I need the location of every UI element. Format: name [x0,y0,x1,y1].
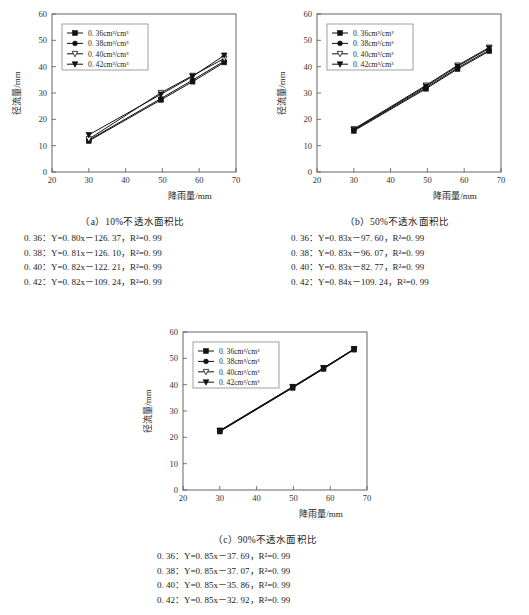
figure-panel-b: 2030405060700102030405060降雨量/mm径流量/mm0. … [265,0,529,310]
equation-item: 0. 40：Y=0. 82x－122. 21，R²=0. 99 [24,260,265,275]
svg-text:0. 40cm³/cm³: 0. 40cm³/cm³ [219,368,260,377]
equation-item: 0. 36：Y=0. 85x－37. 69，R²=0. 99 [157,549,399,564]
svg-text:30: 30 [350,175,359,185]
svg-text:降雨量/mm: 降雨量/mm [299,508,343,519]
svg-text:50: 50 [170,353,179,363]
svg-text:60: 60 [460,175,469,185]
svg-text:降雨量/mm: 降雨量/mm [168,190,212,201]
equation-item: 0. 42：Y=0. 84x－109. 24，R²=0. 99 [291,275,529,290]
equation-list-c: 0. 36：Y=0. 85x－37. 69，R²=0. 99 0. 38：Y=0… [131,549,399,607]
svg-text:40: 40 [304,62,313,72]
equation-item: 0. 36：Y=0. 83x－97. 60，R²=0. 99 [291,231,529,246]
svg-text:70: 70 [232,175,241,185]
svg-text:30: 30 [85,175,94,185]
figure-panel-a: 2030405060700102030405060降雨量/mm径流量/mm0. … [0,0,265,310]
svg-text:0. 36cm³/cm³: 0. 36cm³/cm³ [88,29,129,38]
equation-item: 0. 42：Y=0. 85x－32. 92，R²=0. 99 [157,593,399,608]
equation-item: 0. 38：Y=0. 81x－126. 10，R²=0. 99 [24,246,265,261]
equation-list-b: 0. 36：Y=0. 83x－97. 60，R²=0. 99 0. 38：Y=0… [265,231,529,289]
figure-panel-c: 2030405060700102030405060降雨量/mm径流量/mm0. … [131,318,399,615]
svg-text:20: 20 [313,175,322,185]
svg-text:20: 20 [179,493,188,503]
svg-text:60: 60 [326,493,335,503]
plot-area-a: 2030405060700102030405060降雨量/mm径流量/mm0. … [0,0,265,212]
equation-list-a: 0. 36：Y=0. 80x－126. 37，R²=0. 99 0. 38：Y=… [0,231,265,289]
svg-text:径流量/mm: 径流量/mm [276,71,287,115]
svg-text:30: 30 [216,493,225,503]
svg-text:20: 20 [170,432,179,442]
equation-item: 0. 38：Y=0. 83x－96. 07，R²=0. 99 [291,246,529,261]
svg-text:60: 60 [195,175,204,185]
svg-text:30: 30 [170,406,179,416]
svg-text:10: 10 [39,141,48,151]
svg-text:0. 42cm³/cm³: 0. 42cm³/cm³ [88,60,129,69]
svg-text:0. 38cm³/cm³: 0. 38cm³/cm³ [88,39,129,48]
svg-text:50: 50 [158,175,167,185]
panel-caption-a: （a）10%不透水面积比 [0,214,265,228]
svg-text:0. 40cm³/cm³: 0. 40cm³/cm³ [88,50,129,59]
svg-text:30: 30 [39,88,48,98]
svg-text:40: 40 [252,493,260,503]
svg-text:径流量/mm: 径流量/mm [142,389,153,433]
svg-text:40: 40 [386,175,395,185]
svg-text:60: 60 [170,327,179,337]
svg-text:0. 38cm³/cm³: 0. 38cm³/cm³ [219,357,260,366]
equation-item: 0. 38：Y=0. 85x－37. 07，R²=0. 99 [157,564,399,579]
svg-text:0. 38cm³/cm³: 0. 38cm³/cm³ [353,39,394,48]
svg-text:20: 20 [39,114,48,124]
svg-text:50: 50 [304,35,313,45]
svg-text:0: 0 [174,485,178,495]
svg-text:径流量/mm: 径流量/mm [11,71,22,115]
svg-text:70: 70 [363,493,372,503]
svg-text:40: 40 [121,175,130,185]
svg-text:50: 50 [39,35,48,45]
svg-text:10: 10 [170,459,179,469]
svg-text:60: 60 [304,9,313,19]
plot-area-c: 2030405060700102030405060降雨量/mm径流量/mm0. … [131,318,399,530]
svg-text:0: 0 [43,167,47,177]
panel-caption-b: （b）50%不透水面积比 [265,214,529,228]
svg-text:40: 40 [39,62,48,72]
chart-svg-c: 2030405060700102030405060降雨量/mm径流量/mm0. … [131,318,376,530]
svg-text:0. 36cm³/cm³: 0. 36cm³/cm³ [353,29,394,38]
equation-item: 0. 40：Y=0. 85x－35. 86，R²=0. 99 [157,578,399,593]
svg-text:20: 20 [304,114,313,124]
svg-text:10: 10 [304,141,313,151]
svg-text:0. 42cm³/cm³: 0. 42cm³/cm³ [219,378,260,387]
equation-item: 0. 40：Y=0. 83x－82. 77，R²=0. 99 [291,260,529,275]
svg-text:70: 70 [497,175,506,185]
chart-svg-a: 2030405060700102030405060降雨量/mm径流量/mm0. … [0,0,245,212]
equation-item: 0. 36：Y=0. 80x－126. 37，R²=0. 99 [24,231,265,246]
plot-area-b: 2030405060700102030405060降雨量/mm径流量/mm0. … [265,0,529,212]
svg-text:20: 20 [48,175,57,185]
svg-text:40: 40 [170,380,179,390]
svg-text:降雨量/mm: 降雨量/mm [433,190,477,201]
panel-caption-c: （c）90%不透水面积比 [131,532,399,546]
equation-item: 0. 42：Y=0. 82x－109. 24，R²=0. 99 [24,275,265,290]
svg-text:0. 42cm³/cm³: 0. 42cm³/cm³ [353,60,394,69]
svg-text:0: 0 [308,167,312,177]
svg-text:60: 60 [39,9,48,19]
svg-text:0. 36cm³/cm³: 0. 36cm³/cm³ [219,347,260,356]
svg-text:30: 30 [304,88,313,98]
svg-text:50: 50 [423,175,432,185]
svg-text:50: 50 [289,493,298,503]
chart-svg-b: 2030405060700102030405060降雨量/mm径流量/mm0. … [265,0,510,212]
svg-text:0. 40cm³/cm³: 0. 40cm³/cm³ [353,50,394,59]
